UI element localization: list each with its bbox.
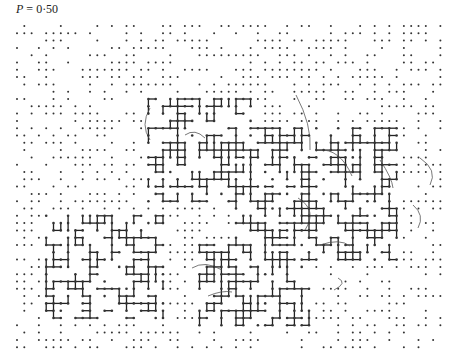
- percolation-lattice: [0, 0, 460, 356]
- cluster-bonds: [46, 99, 396, 325]
- lattice-sites: [16, 25, 441, 348]
